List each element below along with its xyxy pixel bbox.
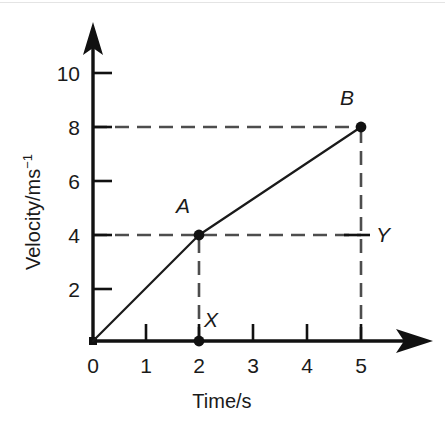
- velocity-time-chart: 2 4 6 8 10 0 1 2 3 4 5: [0, 0, 445, 424]
- y-axis-tick-labels: 2 4 6 8 10: [57, 62, 81, 301]
- y-tick-label-6: 6: [68, 170, 80, 193]
- x-axis-title: Time/s: [192, 390, 251, 412]
- x-tick-label-4: 4: [301, 354, 313, 377]
- point-label-x: X: [203, 308, 219, 331]
- data-point-x: [194, 336, 205, 347]
- y-axis-title-text: Velocity/ms: [22, 169, 44, 270]
- y-axis-title-group: Velocity/ms−1: [20, 154, 44, 270]
- point-label-a: A: [174, 194, 190, 217]
- x-tick-label-2: 2: [193, 354, 205, 377]
- data-point-a: [194, 230, 205, 241]
- y-axis-title-superscript: −1: [20, 154, 35, 169]
- y-axis-ticks: [93, 73, 112, 289]
- point-label-b: B: [340, 86, 354, 109]
- point-label-y: Y: [376, 223, 392, 246]
- y-tick-label-10: 10: [57, 62, 80, 85]
- x-tick-label-5: 5: [355, 354, 367, 377]
- y-axis-title: Velocity/ms−1: [20, 154, 44, 270]
- x-axis-ticks: [146, 324, 361, 341]
- x-tick-label-3: 3: [247, 354, 259, 377]
- y-tick-label-4: 4: [68, 224, 80, 247]
- x-tick-label-0: 0: [87, 354, 99, 377]
- velocity-time-graph-figure: 2 4 6 8 10 0 1 2 3 4 5: [0, 0, 445, 424]
- axes: [83, 22, 433, 353]
- y-tick-label-8: 8: [68, 116, 80, 139]
- guide-lines: [93, 127, 361, 341]
- data-point-b: [356, 122, 367, 133]
- y-tick-label-2: 2: [68, 278, 80, 301]
- x-tick-label-1: 1: [140, 354, 152, 377]
- x-axis-tick-labels: 0 1 2 3 4 5: [87, 354, 367, 377]
